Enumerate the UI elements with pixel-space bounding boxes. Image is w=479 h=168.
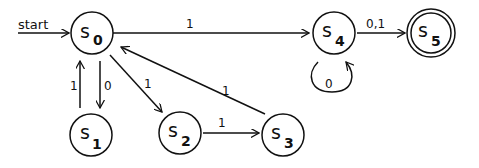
transition-s4-s4: 0 <box>311 62 351 92</box>
svg-text:2: 2 <box>181 133 191 149</box>
state-s2: s 2 <box>159 112 201 154</box>
svg-text:s: s <box>322 19 332 41</box>
state-s0: s 0 <box>71 12 113 54</box>
transition-s4-s5: 0,1 <box>357 17 405 33</box>
transition-s2-s3: 1 <box>203 116 259 133</box>
transition-label: 0 <box>104 79 112 93</box>
state-s3: s 3 <box>262 114 304 156</box>
transition-label: 1 <box>222 84 230 98</box>
svg-text:s: s <box>271 121 281 143</box>
svg-text:4: 4 <box>335 33 345 49</box>
svg-text:s: s <box>418 19 428 41</box>
svg-text:s: s <box>80 121 90 143</box>
svg-text:3: 3 <box>284 135 294 151</box>
transition-s1-s0: 1 <box>70 61 80 108</box>
transition-label: 1 <box>218 116 226 130</box>
transition-label: 0,1 <box>366 17 385 31</box>
svg-text:0: 0 <box>93 32 103 48</box>
transition-label: 1 <box>70 79 78 93</box>
state-diagram: start 1 0 1 1 1 1 0 0,1 s 0 <box>0 0 479 168</box>
transition-s3-s0: 1 <box>121 47 265 114</box>
start-label: start <box>18 17 48 32</box>
state-s4: s 4 <box>313 12 355 54</box>
transition-s0-s4: 1 <box>113 17 309 33</box>
svg-text:1: 1 <box>92 136 102 152</box>
start-arrow: start <box>18 17 69 33</box>
state-s5-accepting: s 5 <box>407 9 455 57</box>
state-s1: s 1 <box>70 114 112 156</box>
transition-label: 1 <box>144 77 152 91</box>
transition-label: 1 <box>186 17 194 31</box>
svg-text:5: 5 <box>431 33 441 49</box>
svg-text:s: s <box>168 119 178 141</box>
svg-text:s: s <box>80 20 90 42</box>
transition-label: 0 <box>325 77 333 91</box>
transition-s0-s2: 1 <box>110 55 162 112</box>
transition-s0-s1: 0 <box>100 61 112 108</box>
